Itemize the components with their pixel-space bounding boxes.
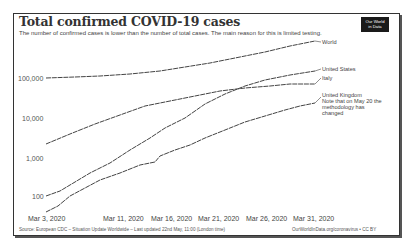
line-chart: 100,000 10,000 1,000 100 World United St… (0, 0, 413, 250)
y-tick-100000: 100,000 (18, 75, 43, 82)
x-tick-mar-26: Mar 26, 2020 (246, 215, 287, 222)
y-tick-100: 100 (32, 193, 44, 200)
x-tick-mar-31: Mar 31, 2020 (293, 215, 334, 222)
x-tick-mar-11: Mar 11, 2020 (103, 215, 144, 222)
label-world: World (322, 39, 337, 45)
source-note: Source: European CDC – Situation Update … (19, 227, 225, 232)
x-tick-mar-3: Mar 3, 2020 (28, 215, 65, 222)
series-united-states[interactable] (46, 71, 315, 196)
series-italy[interactable] (46, 84, 315, 144)
label-italy: Italy (322, 75, 332, 81)
source-link[interactable]: OurWorldInData.org/coronavirus • CC BY (292, 227, 376, 232)
label-united-states: United States (322, 66, 356, 72)
x-tick-mar-21: Mar 21, 2020 (198, 215, 239, 222)
y-tick-10000: 10,000 (22, 115, 44, 122)
x-tick-mar-16: Mar 16, 2020 (151, 215, 192, 222)
y-tick-1000: 1,000 (26, 155, 44, 162)
series-united-kingdom[interactable] (46, 103, 315, 212)
label-uk-note-3: changed (322, 110, 343, 116)
series-world[interactable] (46, 41, 315, 78)
